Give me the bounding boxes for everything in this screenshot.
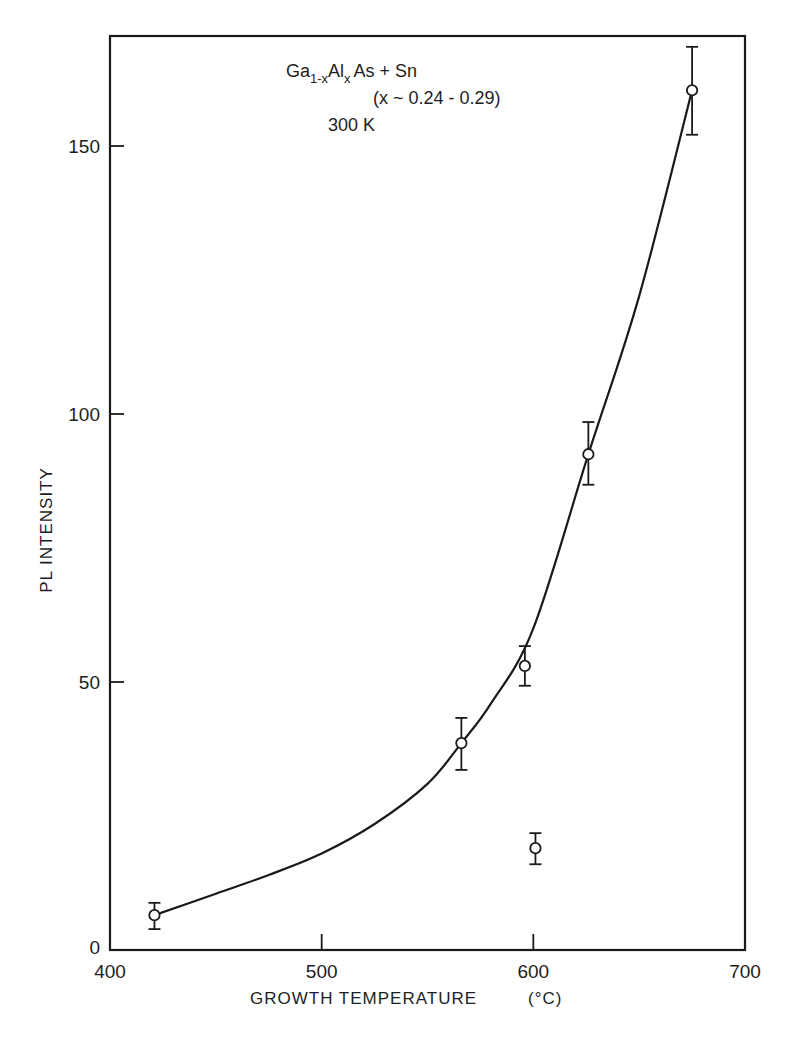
y-tick-label: 100 <box>68 404 100 425</box>
fit-curve <box>154 90 692 915</box>
annot-ga: Ga <box>286 61 311 81</box>
annot-temperature: 300 K <box>328 115 375 135</box>
annot-composition: (x ~ 0.24 - 0.29) <box>373 88 501 108</box>
x-tick-label: 700 <box>729 961 761 982</box>
open-circle-marker <box>530 843 540 853</box>
data-points <box>148 47 698 929</box>
data-point <box>519 646 531 686</box>
x-axis-ticks: 400500600700 <box>94 934 761 982</box>
annot-as-sn: As + Sn <box>354 61 418 81</box>
open-circle-marker <box>456 738 466 748</box>
open-circle-marker <box>583 449 593 459</box>
x-axis-title: GROWTH TEMPERATURE <box>250 989 477 1008</box>
annot-sub-1mx: 1-x <box>310 71 329 86</box>
x-tick-label: 600 <box>517 961 549 982</box>
x-axis-unit: (°C) <box>528 989 562 1008</box>
data-point <box>148 903 160 929</box>
x-tick-label: 500 <box>306 961 338 982</box>
y-axis-title: PL INTENSITY <box>37 467 56 593</box>
data-point <box>686 47 698 135</box>
annot-al: Al <box>328 61 344 81</box>
data-point <box>529 833 541 864</box>
open-circle-marker <box>149 910 159 920</box>
y-axis-ticks: 050100150 <box>68 136 124 958</box>
sample-annotation: Ga1-xAlxAs + Sn (x ~ 0.24 - 0.29) 300 K <box>286 61 501 135</box>
open-circle-marker <box>687 85 697 95</box>
annot-sub-x: x <box>344 71 351 86</box>
y-tick-label: 50 <box>79 672 100 693</box>
y-tick-label: 150 <box>68 136 100 157</box>
data-point <box>582 422 594 485</box>
pl-intensity-chart: 400500600700 050100150 GROWTH TEMPERATUR… <box>0 0 800 1040</box>
y-tick-label: 0 <box>89 937 100 958</box>
plot-frame <box>110 36 745 950</box>
data-point <box>455 718 467 770</box>
svg-text:Ga1-xAlxAs + Sn: Ga1-xAlxAs + Sn <box>286 61 417 86</box>
open-circle-marker <box>520 661 530 671</box>
x-tick-label: 400 <box>94 961 126 982</box>
